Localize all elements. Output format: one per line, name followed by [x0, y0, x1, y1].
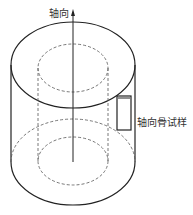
cylinder-diagram — [0, 0, 193, 215]
specimen-rect — [117, 96, 131, 130]
axis-arrowhead-icon — [71, 9, 75, 16]
axis-label: 轴向 — [49, 9, 69, 19]
specimen-label: 轴向骨试样 — [137, 118, 187, 128]
bottom-outer-ellipse-front — [11, 162, 135, 205]
